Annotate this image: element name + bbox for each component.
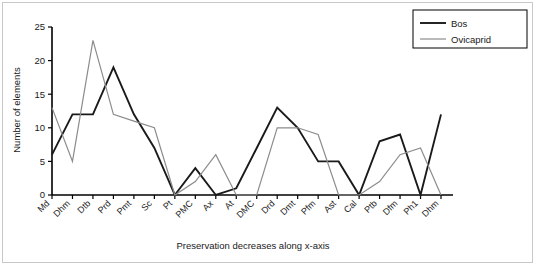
legend-label-ovicaprid: Ovicaprid	[451, 34, 491, 45]
x-tick-label: DMC	[235, 198, 257, 220]
x-tick-label: Dfm	[381, 198, 400, 217]
x-tick-label: Dtb	[75, 198, 92, 215]
data-series-group	[52, 40, 441, 195]
x-tick-label: Ph1	[402, 198, 420, 216]
line-chart-plot: MdDhmDtbPrdPmtScPtPMCAxAtDMCDrdDmtPfmAst…	[0, 0, 537, 267]
x-tick-label: Sc	[139, 198, 154, 213]
y-axis	[48, 27, 52, 195]
x-tick-label: Dhm	[51, 198, 72, 219]
x-tick-label: Dhm	[420, 198, 441, 219]
x-tick-label: At	[223, 198, 236, 211]
chart-legend: BosOvicaprid	[413, 10, 527, 48]
x-tick-label: Pt	[161, 198, 174, 211]
y-tick-label: 20	[34, 55, 45, 66]
x-tick-label: Md	[35, 198, 51, 214]
y-tick-label: 15	[34, 89, 45, 100]
series-line-bos	[52, 67, 441, 195]
y-tick-labels: 0510152025	[34, 21, 45, 200]
y-tick-label: 10	[34, 122, 45, 133]
legend-label-bos: Bos	[451, 18, 468, 29]
y-tick-label: 5	[40, 156, 45, 167]
y-axis-title: Number of elements	[11, 67, 22, 153]
series-line-ovicaprid	[52, 40, 441, 195]
x-tick-labels: MdDhmDtbPrdPmtScPtPMCAxAtDMCDrdDmtPfmAst…	[35, 198, 440, 220]
x-tick-label: Ast	[322, 198, 339, 215]
x-tick-label: Ptb	[362, 198, 379, 215]
y-tick-label: 25	[34, 21, 45, 32]
x-tick-label: Prd	[96, 198, 113, 215]
x-tick-label: Cal	[342, 198, 359, 215]
x-tick-label: Drd	[259, 198, 276, 215]
x-tick-label: Pfm	[299, 198, 317, 216]
x-tick-label: Pmt	[115, 198, 134, 217]
x-tick-label: PMC	[174, 198, 196, 220]
x-axis-title: Preservation decreases along x-axis	[176, 240, 329, 251]
chart-figure: MdDhmDtbPrdPmtScPtPMCAxAtDMCDrdDmtPfmAst…	[0, 0, 537, 267]
y-tick-label: 0	[40, 189, 45, 200]
x-tick-label: Dmt	[278, 198, 297, 217]
x-tick-label: Ax	[201, 198, 216, 213]
